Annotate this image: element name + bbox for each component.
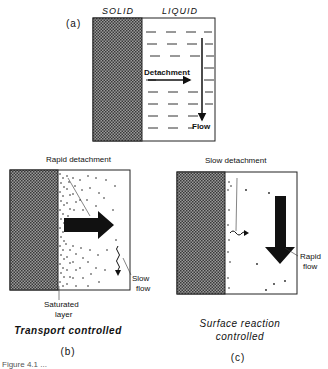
panel-a-label: (a) xyxy=(66,18,81,29)
figure-caption-partial: Figure 4.1 ... xyxy=(2,360,47,369)
panel-c xyxy=(177,172,298,294)
label-slow-flow-2: flow xyxy=(136,284,150,293)
caption-transport-controlled: Transport controlled xyxy=(8,325,128,336)
label-rapid-flow-1: Rapid xyxy=(300,252,321,261)
panel-c-label: (c) xyxy=(218,352,258,363)
label-rapid-detachment: Rapid detachment xyxy=(46,155,111,164)
label-flow: Flow xyxy=(192,122,210,131)
header-solid: SOLID xyxy=(102,6,134,16)
panel-b xyxy=(10,170,131,300)
solid-block-a xyxy=(93,18,142,141)
solid-block-c xyxy=(177,172,225,294)
header-liquid: LIQUID xyxy=(162,6,198,16)
label-slow-flow-1: Slow xyxy=(132,274,149,283)
label-layer: layer xyxy=(55,310,72,319)
label-slow-detachment: Slow detachment xyxy=(205,156,266,165)
label-rapid-flow-2: flow xyxy=(303,262,317,271)
label-detachment: Detachment xyxy=(144,68,190,77)
solid-block-b xyxy=(10,170,58,290)
caption-surface-reaction-2: controlled xyxy=(180,331,300,342)
label-saturated: Saturated xyxy=(44,300,79,309)
caption-surface-reaction-1: Surface reaction xyxy=(180,318,300,329)
panel-b-label: (b) xyxy=(48,346,88,357)
